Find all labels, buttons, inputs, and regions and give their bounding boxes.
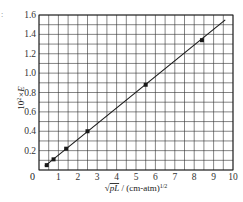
chart: 0.20.40.60.81.01.21.41.6 12345678910 0 1… — [0, 0, 243, 202]
x-tick-label: 9 — [211, 172, 216, 182]
x-tick-label: 4 — [114, 172, 119, 182]
data-point-marker — [52, 157, 56, 161]
data-point-marker — [200, 38, 204, 42]
y-axis-label: 102×E — [16, 86, 26, 110]
origin-label: 0 — [30, 171, 35, 182]
fit-line-segment — [45, 20, 225, 166]
fit-line — [45, 20, 225, 166]
x-tick-label: 1 — [56, 172, 61, 182]
svg-text:102×E: 102×E — [16, 86, 26, 110]
y-tick-label: 1.4 — [24, 29, 36, 39]
y-tick-label: 0.4 — [24, 126, 36, 136]
y-tick-label: 1.2 — [24, 49, 36, 59]
data-point-marker — [45, 163, 49, 167]
y-tick-labels: 0.20.40.60.81.01.21.41.6 — [24, 10, 36, 156]
svg-text:√pL / (cm-atm)1/2: √pL / (cm-atm)1/2 — [105, 183, 168, 193]
x-tick-label: 10 — [228, 172, 238, 182]
x-tick-label: 8 — [192, 172, 197, 182]
x-tick-labels: 12345678910 — [56, 172, 238, 182]
x-tick-label: 2 — [75, 172, 80, 182]
x-tick-label: 7 — [172, 172, 177, 182]
x-tick-label: 5 — [134, 172, 139, 182]
y-tick-label: 1.0 — [24, 68, 36, 78]
data-point-marker — [86, 129, 90, 133]
data-points — [45, 38, 204, 167]
data-point-marker — [64, 147, 68, 151]
x-tick-label: 6 — [153, 172, 158, 182]
x-axis-label: √pL / (cm-atm)1/2 — [105, 183, 168, 193]
y-tick-label: 0.2 — [24, 146, 36, 156]
x-tick-label: 3 — [95, 172, 100, 182]
cropped-edge-text: : — [1, 10, 3, 19]
y-tick-label: 1.6 — [24, 10, 36, 20]
data-point-marker — [144, 83, 148, 87]
